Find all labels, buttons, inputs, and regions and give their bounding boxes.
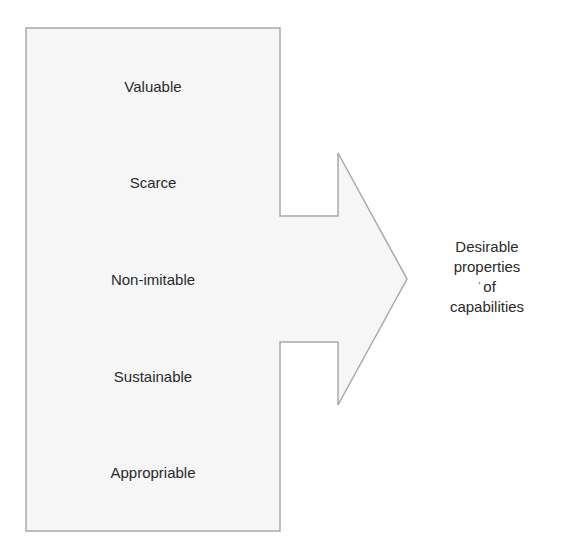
property-sustainable: Sustainable xyxy=(26,368,280,386)
property-non-imitable: Non-imitable xyxy=(26,271,280,289)
outcome-line-1: Desirable xyxy=(412,237,562,257)
outcome-label: Desirable properties ’of capabilities xyxy=(412,237,562,317)
outcome-line-4: capabilities xyxy=(412,297,562,317)
property-appropriable: Appropriable xyxy=(26,464,280,482)
property-scarce: Scarce xyxy=(26,174,280,192)
outcome-line-3: ’of xyxy=(412,277,562,297)
property-valuable: Valuable xyxy=(26,78,280,96)
outcome-line-3-text: of xyxy=(483,278,496,295)
outcome-line-2: properties xyxy=(412,257,562,277)
capabilities-diagram: Valuable Scarce Non-imitable Sustainable… xyxy=(0,0,565,557)
stray-mark: ’ xyxy=(478,281,480,292)
